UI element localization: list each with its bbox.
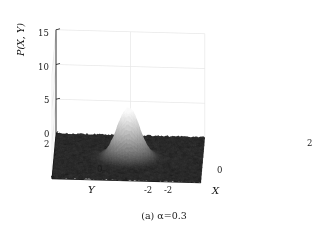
y-axis-tick-label: -2 [144,186,152,195]
y-axis-title: Y [88,185,95,195]
z-axis-title: P(X, Y) [16,23,26,56]
x-axis-tick-label: 0 [217,166,222,175]
figure-caption: (a) α=0.3 [0,210,328,221]
z-axis-tick-label: 15 [38,29,49,38]
z-axis-tick-label: 5 [44,96,49,105]
x-axis-title: X [212,186,219,196]
y-axis-tick-label: 0 [97,165,102,174]
z-axis-tick-label: 0 [44,130,49,139]
y-axis-tick-label: 2 [44,140,49,149]
x-axis-tick-label: -2 [164,186,172,195]
figure-3d-surface-plot: P(X, Y) Y X 15105020-2-202 (a) α=0.3 [0,0,328,243]
x-axis-tick-label: 2 [307,139,312,148]
surface-plot-canvas [0,0,328,243]
z-axis-tick-label: 10 [38,63,49,72]
